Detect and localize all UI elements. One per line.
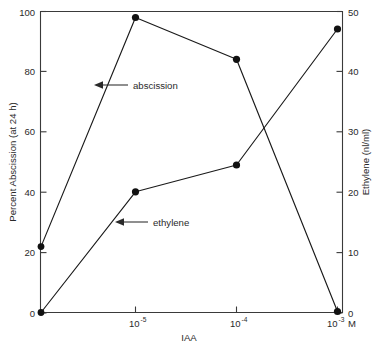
chart-figure: 0 20 40 60 80 100 0 10 20 30 40 50: [0, 0, 377, 344]
right-tick-label-30: 30: [348, 126, 359, 137]
abscission-arrow-head-icon: [94, 81, 103, 89]
abscission-point-1e-3: [334, 308, 341, 315]
right-axis-ticks: [337, 12, 343, 314]
x-tick-exp-3: -3: [339, 316, 345, 323]
x-tick-label-1e-4: 10 -4: [230, 316, 248, 329]
ethylene-annotation-label: ethylene: [153, 217, 189, 228]
annotation-ethylene: ethylene: [115, 217, 189, 228]
x-tick-exp-2: -4: [242, 316, 248, 323]
left-tick-label-0: 0: [30, 308, 35, 319]
abscission-ethylene-line-chart: 0 20 40 60 80 100 0 10 20 30 40 50: [0, 0, 377, 344]
ethylene-arrow-head-icon: [115, 218, 124, 226]
left-tick-label-20: 20: [24, 247, 35, 258]
x-axis-title: IAA: [181, 332, 197, 343]
left-tick-label-100: 100: [19, 7, 35, 18]
x-tick-base-2: 10: [230, 318, 241, 329]
right-axis-tick-labels: 0 10 20 30 40 50: [348, 7, 359, 319]
ethylene-line: [41, 29, 338, 313]
abscission-point-control: [38, 243, 45, 250]
x-axis-unit-label: M: [348, 318, 356, 329]
x-tick-label-1e-3: 10 -3 M: [327, 316, 356, 329]
left-tick-label-60: 60: [24, 126, 35, 137]
left-tick-label-40: 40: [24, 187, 35, 198]
x-tick-exp-1: -5: [141, 316, 147, 323]
ethylene-point-1e-3: [334, 25, 341, 32]
abscission-line: [41, 18, 338, 312]
ethylene-point-control: [38, 309, 45, 316]
right-tick-label-50: 50: [348, 7, 359, 18]
x-tick-base-1: 10: [129, 318, 140, 329]
x-axis-tick-labels: 10 -5 10 -4 10 -3 M: [129, 316, 356, 329]
left-axis-ticks: [41, 12, 47, 314]
right-tick-label-20: 20: [348, 187, 359, 198]
ethylene-point-1e-4: [233, 161, 240, 168]
x-tick-label-1e-5: 10 -5: [129, 316, 147, 329]
y2-axis-title: Ethylene (nl/ml): [360, 129, 371, 196]
series-abscission: [38, 14, 342, 315]
abscission-annotation-label: abscission: [133, 80, 178, 91]
plot-axes: [41, 11, 344, 313]
x-tick-base-3: 10: [327, 318, 338, 329]
abscission-point-1e-5: [132, 14, 139, 21]
abscission-point-1e-4: [233, 56, 240, 63]
right-tick-label-10: 10: [348, 247, 359, 258]
ethylene-point-1e-5: [132, 188, 139, 195]
right-tick-label-40: 40: [348, 66, 359, 77]
right-tick-label-0: 0: [348, 308, 353, 319]
series-ethylene: [38, 25, 342, 316]
y-axis-title: Percent Abscission (at 24 h): [7, 102, 18, 221]
left-tick-label-80: 80: [24, 66, 35, 77]
left-axis-tick-labels: 0 20 40 60 80 100: [19, 7, 35, 319]
